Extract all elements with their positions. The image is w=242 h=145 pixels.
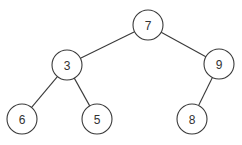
tree-node-5: 5 <box>82 104 112 134</box>
tree-node-8: 8 <box>177 104 207 134</box>
node-label: 7 <box>145 19 152 33</box>
node-label: 8 <box>189 113 196 127</box>
edge-7-to-3 <box>80 32 134 59</box>
tree-node-9: 9 <box>204 49 234 79</box>
edge-7-to-9 <box>161 32 206 57</box>
edge-9-to-8 <box>199 77 213 105</box>
binary-tree-diagram: 739658 <box>0 0 242 145</box>
tree-node-6: 6 <box>7 104 37 134</box>
edge-3-to-6 <box>32 77 58 108</box>
node-label: 9 <box>216 58 223 72</box>
node-label: 3 <box>64 59 71 73</box>
edge-3-to-5 <box>74 78 89 106</box>
node-label: 6 <box>19 113 26 127</box>
tree-node-7: 7 <box>133 10 163 40</box>
nodes-layer: 739658 <box>7 10 234 134</box>
node-label: 5 <box>94 113 101 127</box>
tree-node-3: 3 <box>52 50 82 80</box>
